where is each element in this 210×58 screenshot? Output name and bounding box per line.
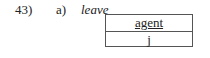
feature-row-value: j bbox=[106, 32, 192, 48]
value-text: j bbox=[147, 32, 151, 47]
attribute-text: agent bbox=[135, 15, 163, 30]
feature-row-attribute: agent bbox=[106, 15, 192, 32]
example-label: a) bbox=[56, 2, 66, 18]
feature-box: agent j bbox=[105, 14, 193, 47]
example-number: 43) bbox=[15, 2, 32, 18]
